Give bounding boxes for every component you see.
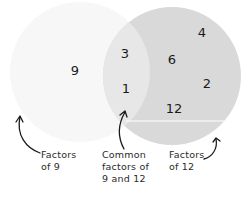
label-line: of 9 bbox=[41, 161, 76, 173]
label-factors-of-12: Factors of 12 bbox=[169, 149, 204, 173]
label-line: 9 and 12 bbox=[102, 173, 149, 185]
number-1: 1 bbox=[122, 82, 130, 95]
label-line: Factors bbox=[169, 149, 204, 161]
number-2: 2 bbox=[203, 77, 211, 90]
number-3: 3 bbox=[121, 47, 129, 60]
number-9: 9 bbox=[71, 64, 79, 77]
label-line: Common bbox=[102, 149, 149, 161]
label-line: factors of bbox=[102, 161, 149, 173]
arrow-right-icon bbox=[204, 139, 216, 159]
number-12: 12 bbox=[166, 102, 183, 115]
venn-diagram: 9 3 1 6 4 2 12 Factors of 9 Common facto… bbox=[0, 0, 247, 200]
label-line: of 12 bbox=[169, 161, 204, 173]
label-line: Factors bbox=[41, 149, 76, 161]
number-6: 6 bbox=[168, 53, 176, 66]
label-factors-of-9: Factors of 9 bbox=[41, 149, 76, 173]
label-common-factors: Common factors of 9 and 12 bbox=[102, 149, 149, 185]
number-4: 4 bbox=[198, 26, 206, 39]
